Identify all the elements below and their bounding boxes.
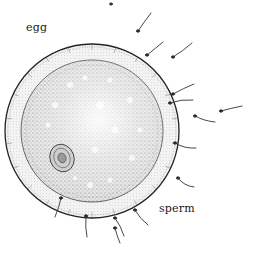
egg-label: egg [26,21,47,34]
sperm-7 [193,115,215,122]
cytoplasm [21,60,163,202]
sperm-3 [171,43,192,58]
sperm-9 [176,177,194,187]
sperm-15 [110,3,113,5]
sperm-6 [219,106,242,112]
sperm-label: sperm [159,202,195,215]
sperm-2 [145,42,163,56]
egg-sperm-illustration: egg sperm [0,0,254,256]
sperm-4 [171,84,194,95]
sperm-14 [113,227,120,243]
sperm-10 [133,209,148,225]
sperm-1 [136,13,151,32]
